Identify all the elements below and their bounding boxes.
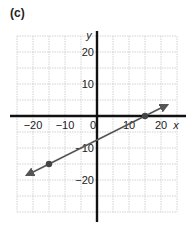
x-tick-label: 10 — [123, 119, 135, 131]
coordinate-graph: xy−20−10010202010−10−20 — [0, 0, 194, 235]
x-tick-label: −10 — [56, 119, 75, 131]
x-tick-label: −20 — [24, 119, 43, 131]
data-point — [46, 161, 52, 167]
y-tick-label: −10 — [75, 142, 94, 154]
data-point — [142, 113, 148, 119]
x-tick-label: 20 — [155, 119, 167, 131]
x-axis-label: x — [172, 119, 179, 131]
y-tick-label: 20 — [82, 46, 94, 58]
x-tick-label: 0 — [90, 119, 96, 131]
y-axis-label: y — [85, 29, 93, 41]
y-tick-label: 10 — [82, 78, 94, 90]
y-tick-label: −20 — [75, 174, 94, 186]
